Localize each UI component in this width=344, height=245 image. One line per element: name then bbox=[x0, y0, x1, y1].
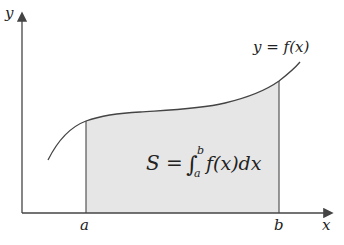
lower-bound-label: a bbox=[80, 216, 89, 234]
integrand: f(x)dx bbox=[204, 152, 262, 174]
shaded-area-region bbox=[86, 81, 279, 213]
integral-upper-limit: b bbox=[197, 144, 204, 157]
y-axis-label: y bbox=[4, 4, 14, 22]
integral-lower-limit: a bbox=[194, 167, 201, 180]
formula-equals: = bbox=[166, 151, 183, 175]
upper-bound-label: b bbox=[274, 216, 284, 234]
curve-label: y = f(x) bbox=[252, 38, 309, 56]
integral-diagram: y x a b y = f(x) S = ∫ b a f(x)dx bbox=[0, 0, 344, 245]
x-axis-label: x bbox=[322, 216, 331, 234]
formula-lhs: S bbox=[146, 151, 160, 175]
